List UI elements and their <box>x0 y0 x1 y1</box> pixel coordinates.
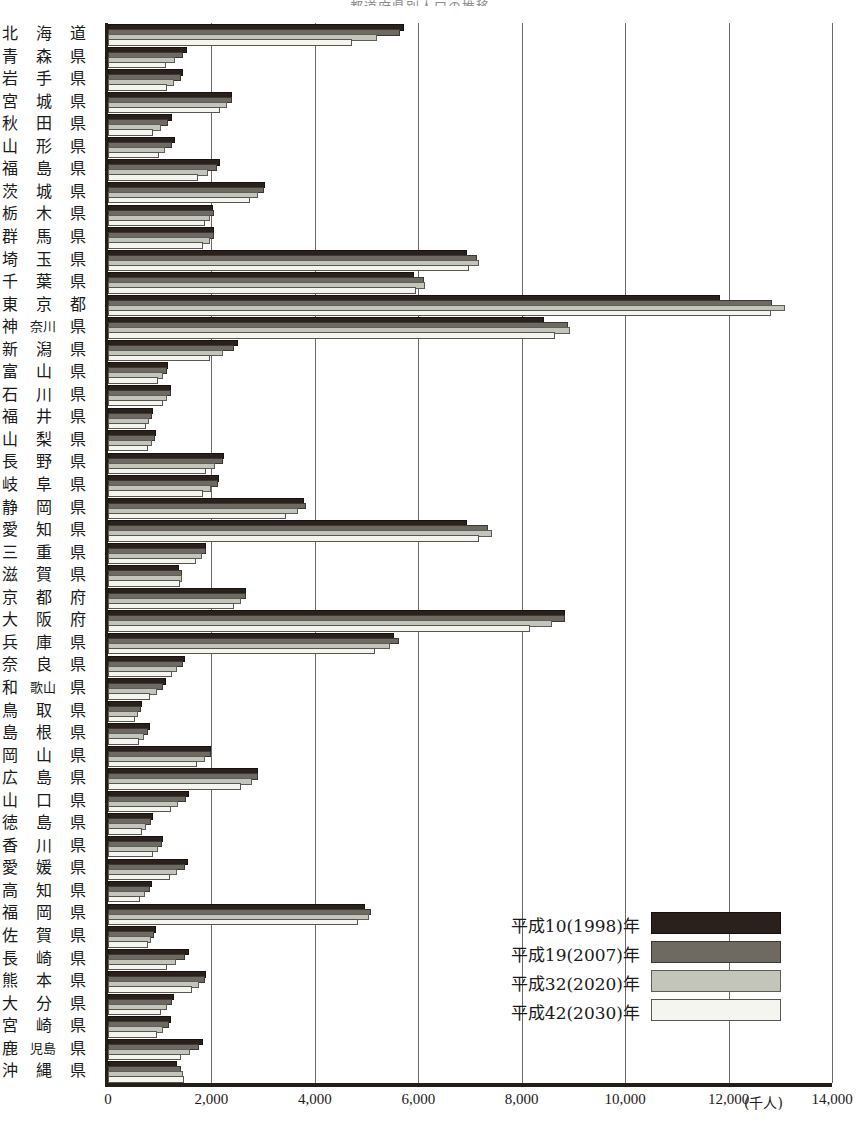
bar-group <box>108 316 832 339</box>
gridline <box>832 23 833 1083</box>
category-label: 高知県 <box>0 880 96 903</box>
category-label-char: 県 <box>70 857 86 880</box>
bar-group <box>108 91 832 114</box>
bar-group <box>108 835 832 858</box>
category-label: 鳥取県 <box>0 700 96 723</box>
category-label: 岩手県 <box>0 68 96 91</box>
chart-legend: 平成10(1998)年平成19(2007)年平成32(2020)年平成42(20… <box>455 910 785 1028</box>
category-label: 広島県 <box>0 767 96 790</box>
category-label: 徳島県 <box>0 812 96 835</box>
category-label-char: 福 <box>2 902 18 925</box>
category-label-char: 宮 <box>2 1015 18 1038</box>
category-label-char: 和 <box>2 677 18 700</box>
category-label-char: 山 <box>2 790 18 813</box>
category-label-char: 埼 <box>2 249 18 272</box>
category-label-char: 崎 <box>36 1015 52 1038</box>
category-label-char: 青 <box>2 46 18 69</box>
category-label: 茨城県 <box>0 181 96 204</box>
category-label-char: 北 <box>2 23 18 46</box>
category-label-char: 島 <box>2 722 18 745</box>
category-label: 山形県 <box>0 136 96 159</box>
category-label-char: 県 <box>70 136 86 159</box>
category-label-char: 賀 <box>36 564 52 587</box>
category-label-char: 長 <box>2 948 18 971</box>
category-label-char: 岡 <box>36 902 52 925</box>
category-label-char: 広 <box>2 767 18 790</box>
category-label-char: 山 <box>2 429 18 452</box>
category-label: 山梨県 <box>0 429 96 452</box>
bar-group <box>108 158 832 181</box>
category-label: 北海道 <box>0 23 96 46</box>
bar-group <box>108 339 832 362</box>
x-axis-tick-label: 0 <box>68 1091 148 1108</box>
category-label-char: 児島 <box>30 1038 56 1061</box>
bar-group <box>108 361 832 384</box>
category-label-char: 長 <box>2 451 18 474</box>
category-label-char: 福 <box>2 158 18 181</box>
category-label-char: 分 <box>36 993 52 1016</box>
category-label-char: 県 <box>70 880 86 903</box>
x-axis-tick-label: 10,000 <box>585 1091 665 1108</box>
bar-group <box>108 181 832 204</box>
category-label-char: 島 <box>36 158 52 181</box>
category-label-char: 鹿 <box>2 1038 18 1061</box>
category-label-char: 県 <box>70 68 86 91</box>
category-label-char: 本 <box>36 970 52 993</box>
category-label-char: 島 <box>36 767 52 790</box>
category-label-char: 都 <box>36 587 52 610</box>
category-label: 沖縄県 <box>0 1060 96 1083</box>
bar-group <box>108 542 832 565</box>
category-label: 島根県 <box>0 722 96 745</box>
category-label-char: 川 <box>36 384 52 407</box>
bar-group <box>108 203 832 226</box>
legend-item: 平成42(2030)年 <box>455 997 785 1025</box>
category-label: 青森県 <box>0 46 96 69</box>
category-label-char: 県 <box>70 91 86 114</box>
category-label-char: 大 <box>2 609 18 632</box>
bar-group <box>108 68 832 91</box>
bar-group <box>108 880 832 903</box>
category-label-char: 都 <box>70 294 86 317</box>
category-label-char: 知 <box>36 519 52 542</box>
category-label-char: 香 <box>2 835 18 858</box>
bar-group <box>108 790 832 813</box>
category-label: 香川県 <box>0 835 96 858</box>
category-label: 千葉県 <box>0 271 96 294</box>
category-label-char: 県 <box>70 722 86 745</box>
category-label: 福島県 <box>0 158 96 181</box>
bar-group <box>108 497 832 520</box>
category-label-char: 京 <box>2 587 18 610</box>
category-label: 岐阜県 <box>0 474 96 497</box>
category-label-char: 三 <box>2 542 18 565</box>
category-label-char: 岡 <box>2 745 18 768</box>
category-label-char: 奈川 <box>30 316 56 339</box>
category-label-char: 県 <box>70 271 86 294</box>
category-label-char: 県 <box>70 790 86 813</box>
bar-group <box>108 451 832 474</box>
category-label-char: 道 <box>70 23 86 46</box>
category-label-char: 県 <box>70 249 86 272</box>
category-label-char: 栃 <box>2 203 18 226</box>
category-label-char: 根 <box>36 722 52 745</box>
category-label-char: 県 <box>70 948 86 971</box>
category-label-char: 県 <box>70 158 86 181</box>
category-label: 福岡県 <box>0 902 96 925</box>
category-label-char: 山 <box>36 745 52 768</box>
bar-group <box>108 406 832 429</box>
category-label-char: 野 <box>36 451 52 474</box>
category-label-char: 県 <box>70 113 86 136</box>
bar-group <box>108 564 832 587</box>
category-label-char: 県 <box>70 384 86 407</box>
x-axis-tick-label: 4,000 <box>275 1091 355 1108</box>
category-label-char: 大 <box>2 993 18 1016</box>
category-label: 静岡県 <box>0 497 96 520</box>
x-axis-tick-label: 14,000 <box>792 1091 857 1108</box>
category-label: 栃木県 <box>0 203 96 226</box>
category-label-char: 愛 <box>2 857 18 880</box>
category-label-char: 佐 <box>2 925 18 948</box>
legend-swatch <box>651 941 781 963</box>
category-label-char: 歌山 <box>30 677 56 700</box>
category-label-char: 県 <box>70 1038 86 1061</box>
legend-label: 平成32(2020)年 <box>455 970 640 995</box>
category-label-char: 岐 <box>2 474 18 497</box>
